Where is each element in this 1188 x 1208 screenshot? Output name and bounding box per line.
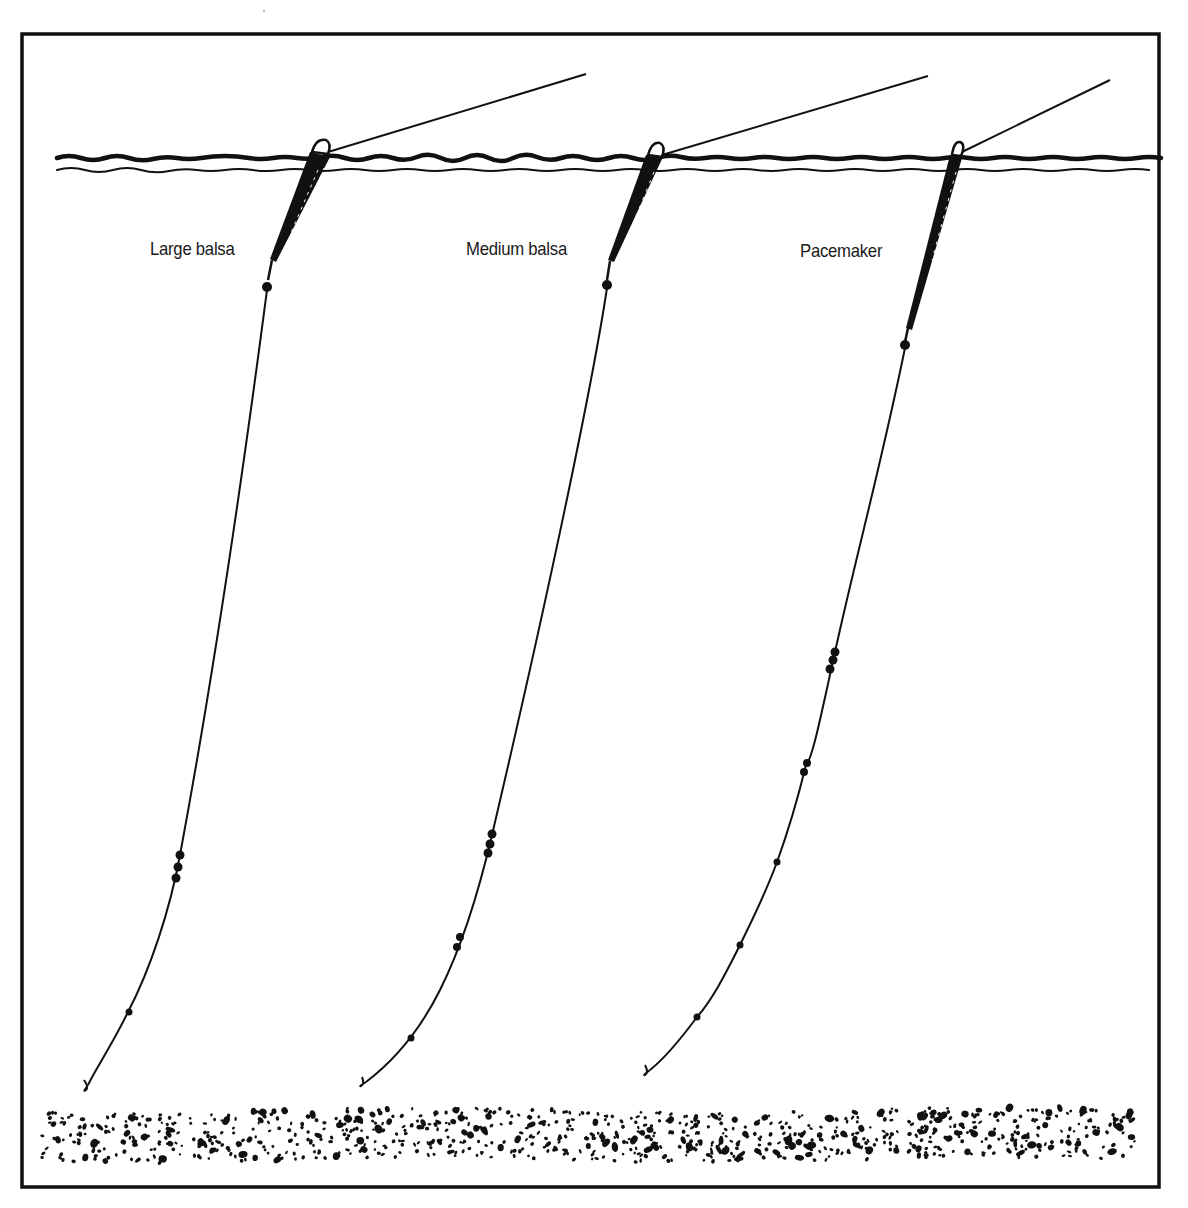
shot-pair (453, 943, 461, 951)
water-surface-upper (57, 155, 1161, 161)
single-shot (737, 942, 744, 949)
rig-pacemaker (644, 80, 1110, 1075)
rig-medium-balsa (360, 76, 928, 1086)
main-line-below-water (88, 290, 267, 1085)
bulk-shot (172, 874, 181, 883)
label-pacemaker: Pacemaker (800, 240, 882, 262)
rig-large-balsa (84, 74, 586, 1091)
bulk-shot (829, 656, 838, 665)
hook-icon (644, 1065, 650, 1075)
float-rigs-diagram (0, 0, 1188, 1208)
medium-balsa-float-icon (607, 143, 664, 280)
dropper-shot (694, 1014, 701, 1021)
main-line-below-water (366, 288, 607, 1082)
bulk-shot (174, 863, 183, 872)
hook-icon (84, 1080, 88, 1091)
shot-pair (456, 933, 464, 941)
label-large-balsa: Large balsa (150, 238, 234, 260)
diagram-frame (22, 34, 1159, 1187)
large-balsa-float-icon (268, 140, 330, 280)
single-shot (774, 859, 781, 866)
main-line-below-water (650, 348, 905, 1070)
main-line-above-water (962, 80, 1110, 152)
shot-pair (800, 768, 808, 776)
hook-icon (360, 1077, 366, 1086)
pacemaker-float-icon (905, 142, 963, 342)
bulk-shot (826, 665, 835, 674)
bulk-shot (484, 849, 493, 858)
print-speck (263, 10, 265, 12)
water-surface-lower (57, 168, 1149, 172)
dropper-shot (408, 1035, 415, 1042)
shot-pair (803, 759, 811, 767)
dropper-shot (126, 1009, 133, 1016)
bulk-shot (176, 851, 185, 860)
main-line-above-water (328, 74, 586, 152)
lake-bed-gravel (40, 1102, 1136, 1165)
bulk-shot (488, 830, 497, 839)
label-medium-balsa: Medium balsa (466, 238, 567, 260)
bulk-shot (486, 840, 495, 849)
bulk-shot (831, 648, 840, 657)
main-line-above-water (662, 76, 928, 155)
